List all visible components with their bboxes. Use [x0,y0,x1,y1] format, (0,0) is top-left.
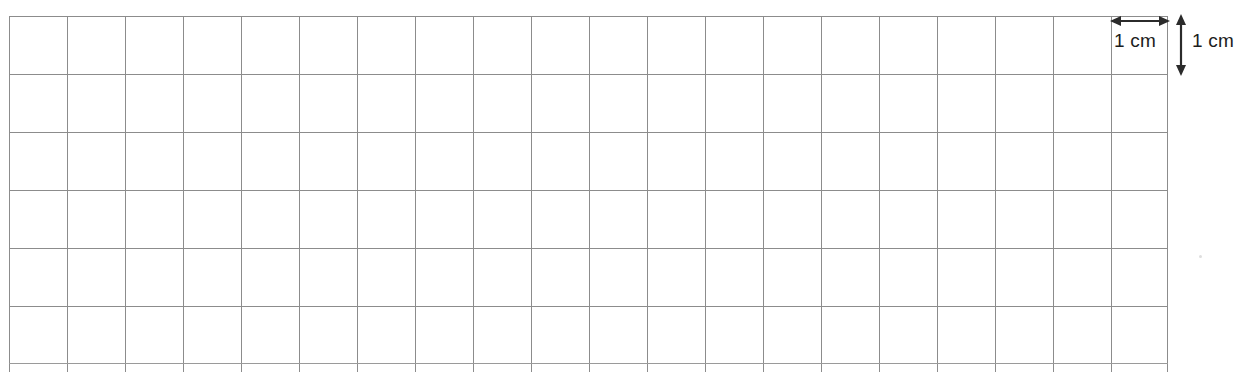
vertical-cm-arrow-icon [1172,14,1190,76]
scan-artifact-speck [1199,255,1202,258]
horizontal-cm-label: 1 cm [1114,31,1156,50]
grid-svg [9,16,1168,372]
centimeter-grid [9,16,1168,364]
vertical-cm-label: 1 cm [1192,31,1234,50]
grid-vertical-lines [10,16,1168,372]
